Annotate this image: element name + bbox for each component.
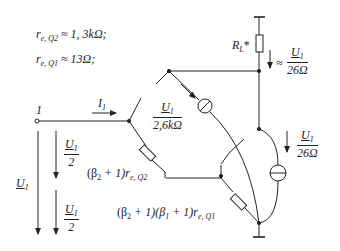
- load-current-numerator-sub: 1: [300, 52, 304, 61]
- node-label: 1: [36, 104, 42, 116]
- q1-current-numerator-sub: 1: [310, 135, 314, 144]
- load-current-numerator: U: [291, 45, 300, 59]
- load-resistor-suffix: *: [244, 38, 250, 52]
- half-voltage-bottom-numerator: U: [65, 202, 74, 216]
- half-voltage-top-numerator: U: [65, 137, 74, 151]
- half-voltage-top-denominator: 2: [64, 155, 79, 168]
- load-current-denominator: 26Ω: [287, 63, 308, 76]
- half-voltage-bottom-denominator: 2: [64, 220, 79, 233]
- q1-current-numerator: U: [301, 128, 310, 142]
- q2-source-wire-top: [169, 71, 199, 100]
- q2-collector-leg: [129, 98, 141, 121]
- q1-emitter-resistor: [230, 194, 246, 210]
- q2-input-resistance-label: (β2 + 1)re, Q2: [87, 167, 147, 182]
- q2-emitter-to-q1-wire: [152, 160, 165, 172]
- q2-collector-wire: [156, 71, 169, 84]
- re-q1-value: ≈ 13Ω;: [61, 52, 95, 66]
- q2-resistance-open: (β: [87, 166, 97, 180]
- input-voltage-label: U1: [16, 177, 29, 192]
- re-q2-value: ≈ 1, 3kΩ;: [61, 27, 107, 41]
- q2-resistance-r-sub: e, Q2: [130, 173, 147, 182]
- input-voltage-symbol: U: [16, 176, 25, 190]
- half-voltage-top-label: U1 2: [64, 138, 79, 168]
- q2-source-wire-bottom: [210, 112, 259, 223]
- q2-current-arrow: [181, 84, 195, 98]
- q1-collector-leg: [230, 139, 244, 152]
- input-current-subscript: 1: [102, 103, 106, 112]
- q2-current-label: U1 2,6kΩ: [153, 101, 182, 131]
- input-current-label: I1: [98, 97, 106, 112]
- re-q1-annotation: re, Q1 ≈ 13Ω;: [36, 53, 95, 68]
- q1-resistance-r-sub: e, Q1: [198, 212, 215, 221]
- load-resistor: [256, 35, 263, 52]
- q2-current-numerator-sub: 1: [170, 107, 174, 116]
- half-voltage-bottom-label: U1 2: [64, 203, 79, 233]
- q1-source-wire-top: [259, 129, 278, 165]
- q2-emitter-resistor: [139, 145, 155, 161]
- q1-emitter-leg: [221, 178, 233, 192]
- q2-current-denominator: 2,6kΩ: [153, 118, 182, 131]
- q1-collector-tie: [221, 152, 230, 164]
- half-voltage-top-numerator-sub: 1: [74, 144, 78, 153]
- re-q1-subscript: e, Q1: [41, 59, 58, 68]
- input-voltage-subscript: 1: [25, 183, 29, 192]
- q2-emitter-leg: [129, 121, 146, 146]
- half-voltage-bottom-numerator-sub: 1: [74, 209, 78, 218]
- re-q2-annotation: re, Q2 ≈ 1, 3kΩ;: [36, 28, 107, 43]
- input-terminal: [35, 119, 39, 123]
- q1-current-denominator: 26Ω: [297, 146, 318, 159]
- load-current-label: U1 26Ω: [287, 46, 308, 76]
- q2-current-numerator: U: [161, 100, 170, 114]
- q1-resistance-rest: + 1)r: [169, 205, 198, 219]
- q1-source-wire-bottom: [259, 181, 278, 223]
- load-current-prefix: ≈: [276, 57, 283, 69]
- re-q2-subscript: e, Q2: [41, 34, 58, 43]
- q1-resistance-mid: + 1)(β: [131, 205, 165, 219]
- load-resistor-label: RL*: [232, 39, 250, 54]
- q1-input-resistance-label: (β2 + 1)(β1 + 1)re, Q1: [117, 206, 215, 221]
- q1-resistance-open: (β: [117, 205, 127, 219]
- q2-current-source-bar: [200, 101, 210, 111]
- q1-current-label: U1 26Ω: [297, 129, 318, 159]
- q2-resistance-rest: + 1)r: [101, 166, 130, 180]
- circuit-diagram: re, Q2 ≈ 1, 3kΩ; re, Q1 ≈ 13Ω; 1 I1 RL* …: [0, 0, 340, 251]
